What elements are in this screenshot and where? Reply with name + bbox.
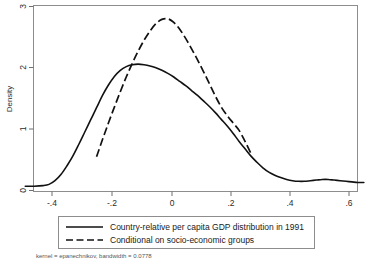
legend-label-unconditional: Country-relative per capita GDP distribu… <box>110 222 304 232</box>
density-plot-figure: 3 2 1 0 Density -.4 -.2 0 .2 .4 .6 Count… <box>0 0 366 261</box>
x-tick-label-0: 0 <box>170 198 175 208</box>
legend-label-conditional: Conditional on socio-economic groups <box>110 235 254 245</box>
x-tick-label-04: .4 <box>286 198 293 208</box>
y-tick-label-3: 3 <box>18 4 28 9</box>
y-tick-label-1: 1 <box>18 126 28 131</box>
y-tick-label-2: 2 <box>18 65 28 70</box>
x-tick-label-neg02: -.2 <box>107 198 117 208</box>
x-tick-label-06: .6 <box>345 198 352 208</box>
x-tick-label-neg04: -.4 <box>47 198 57 208</box>
y-axis-title: Density <box>5 86 14 113</box>
x-tick-label-02: .2 <box>227 198 234 208</box>
legend: Country-relative per capita GDP distribu… <box>59 217 315 249</box>
kernel-footnote: kernel = epanechnikov, bandwidth = 0.077… <box>36 253 152 259</box>
y-tick-label-0: 0 <box>18 188 28 193</box>
